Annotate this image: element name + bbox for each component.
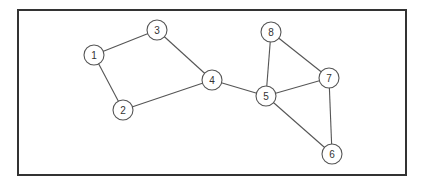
edge-8-7 [271, 32, 329, 78]
node-label: 8 [268, 27, 274, 38]
edge-7-6 [329, 78, 332, 154]
nodes-layer: 12345678 [84, 20, 342, 164]
node-2: 2 [113, 100, 133, 120]
edges-layer [94, 30, 332, 154]
node-label: 7 [326, 73, 332, 84]
node-6: 6 [322, 144, 342, 164]
edge-3-4 [157, 30, 212, 80]
node-label: 2 [120, 105, 126, 116]
node-7: 7 [319, 68, 339, 88]
node-label: 6 [329, 149, 335, 160]
node-5: 5 [256, 86, 276, 106]
node-3: 3 [147, 20, 167, 40]
node-label: 5 [263, 91, 269, 102]
edge-2-4 [123, 80, 212, 110]
node-label: 4 [209, 75, 215, 86]
node-8: 8 [261, 22, 281, 42]
edge-5-6 [266, 96, 332, 154]
node-label: 1 [91, 50, 97, 61]
graph-canvas: 12345678 [0, 0, 422, 183]
node-label: 3 [154, 25, 160, 36]
node-1: 1 [84, 45, 104, 65]
node-4: 4 [202, 70, 222, 90]
